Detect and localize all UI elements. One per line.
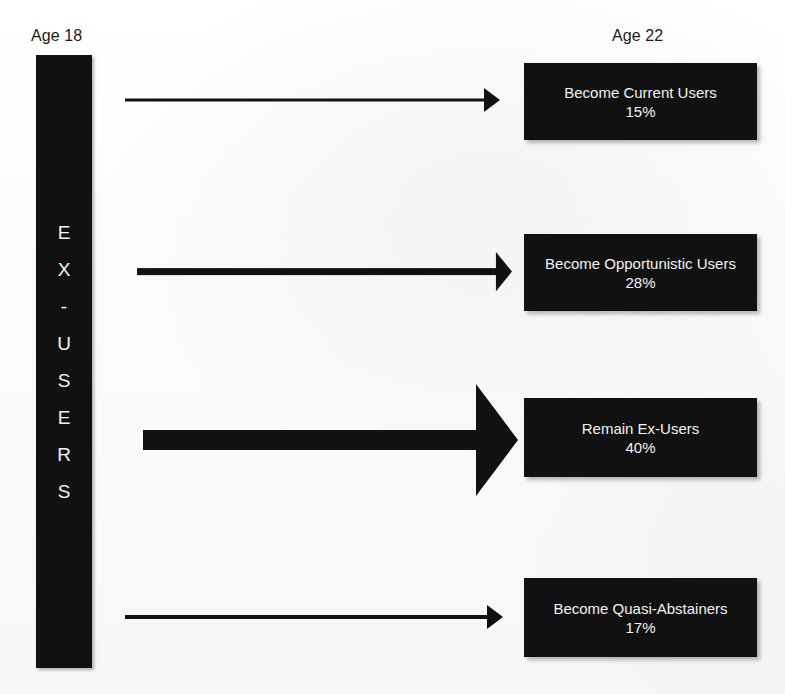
destination-box-become-quasi-abstainers: Become Quasi-Abstainers 17% — [524, 578, 757, 657]
destination-box-label: Remain Ex-Users — [582, 419, 700, 438]
source-bar-letter: E — [58, 408, 71, 427]
destination-box-percent: 17% — [625, 618, 655, 637]
source-bar-letter: S — [58, 482, 71, 501]
source-bar-letter: S — [58, 371, 71, 390]
destination-box-percent: 28% — [625, 273, 655, 292]
destination-box-percent: 15% — [625, 102, 655, 121]
column-label-age-22: Age 22 — [612, 27, 663, 45]
source-bar-letter: R — [57, 445, 71, 464]
destination-box-label: Become Opportunistic Users — [545, 254, 736, 273]
flow-arrow-remain-ex-users — [137, 378, 524, 502]
destination-box-percent: 40% — [625, 438, 655, 457]
destination-box-label: Become Current Users — [564, 83, 717, 102]
flow-arrow-become-opportunistic-users — [131, 246, 518, 297]
source-bar-letter: U — [57, 334, 71, 353]
source-bar-letter: - — [61, 297, 67, 316]
flow-arrow-become-current-users — [119, 82, 506, 118]
source-bar-letter: E — [58, 223, 71, 242]
destination-box-remain-ex-users: Remain Ex-Users 40% — [524, 398, 757, 477]
destination-box-become-opportunistic-users: Become Opportunistic Users 28% — [524, 234, 757, 311]
flow-arrow-become-quasi-abstainers — [119, 599, 509, 635]
destination-box-label: Become Quasi-Abstainers — [553, 599, 727, 618]
source-bar-ex-users: E X - U S E R S — [36, 55, 92, 668]
diagram-canvas: Age 18 Age 22 E X - U S E R S Become Cur… — [0, 0, 785, 694]
destination-box-become-current-users: Become Current Users 15% — [524, 63, 757, 140]
source-bar-letter: X — [58, 260, 71, 279]
source-bar-vertical-text: E X - U S E R S — [36, 55, 92, 668]
column-label-age-18: Age 18 — [31, 27, 82, 45]
